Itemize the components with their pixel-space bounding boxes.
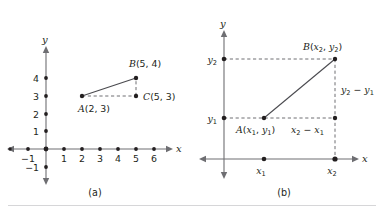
panel-b-point-b [333, 57, 337, 61]
panel-a-xtick-label-2: 2 [79, 153, 85, 164]
panel-a-y-axis-arrow-down [43, 178, 49, 185]
panel-b-ytick-dot-y2 [222, 57, 227, 62]
panel-a-origin-dot [44, 147, 49, 152]
panel-b-ytick-dot-y1 [222, 116, 227, 121]
panel-a-ytick-dot-1 [44, 129, 48, 133]
panel-a-xtick-dot-5 [134, 147, 138, 151]
panel-a-xtick-dot-2 [80, 147, 84, 151]
panel-b-xtick-label-x2: x2 [327, 165, 337, 178]
panel-a: x y −1 1 2 3 4 5 6 [7, 34, 182, 198]
panel-a-ytick-dot-4 [44, 76, 48, 80]
panel-a-y-axis-arrow-up [43, 46, 49, 53]
panel-b-y-axis-label: y [219, 18, 226, 29]
panel-b-segment-ab [264, 59, 335, 118]
panel-a-ytick-label-1: 1 [33, 126, 39, 137]
panel-b-ytick-label-y1: y1 [207, 113, 218, 126]
panel-a-caption: (a) [88, 187, 101, 198]
panel-a-xtick-label-4: 4 [115, 153, 121, 164]
panel-a-xtick-label-3: 3 [97, 153, 103, 164]
panel-a-ytick-label-3: 3 [33, 91, 39, 102]
figure-canvas: x y −1 1 2 3 4 5 6 [0, 0, 384, 212]
panel-b-xtick-dot-x2 [332, 156, 337, 161]
panel-b-ytick-label-y2: y2 [207, 54, 218, 67]
panel-a-ytick-label-2: 2 [33, 109, 39, 120]
panel-a-ytick-dot-neg1 [44, 165, 48, 169]
panel-b-caption: (b) [277, 187, 291, 198]
panel-a-xtick-dot-6 [152, 147, 156, 151]
panel-b-y-axis-arrow-down [221, 172, 227, 179]
panel-a-ytick-label-4: 4 [33, 73, 39, 84]
panel-a-xtick-dot-1 [62, 147, 66, 151]
panel-a-xtick-dot-neg2 [8, 147, 11, 150]
panel-b-xtick-dot-x1 [262, 157, 267, 162]
panel-a-point-b-label: B(5, 4) [128, 58, 161, 69]
panel-a-xtick-dot-4 [116, 147, 120, 151]
panel-b-x-axis-label: x [362, 153, 368, 164]
panel-b-corner-point [333, 116, 337, 120]
panel-b-vertical-leg-label: y2 − y1 [340, 84, 374, 97]
panel-a-x-axis-label: x [176, 143, 182, 154]
panel-a-point-a-label: A(2, 3) [77, 103, 110, 114]
panel-a-ytick-dot-3 [44, 94, 48, 98]
panel-b-point-a [262, 116, 266, 120]
panel-a-xtick-dot-3 [98, 147, 102, 151]
panel-a-ytick-label-neg1: −1 [25, 162, 39, 173]
panel-a-y-axis-label: y [41, 34, 48, 45]
panel-a-point-a [80, 94, 84, 98]
panel-b-y-axis-arrow-up [221, 30, 227, 37]
distance-formula-figure: x y −1 1 2 3 4 5 6 [0, 0, 384, 212]
panel-a-ytick-dot-2 [44, 112, 48, 116]
panel-b-horizontal-leg-label: x2 − x1 [291, 124, 324, 137]
panel-a-xtick-label-1: 1 [61, 153, 67, 164]
bottom-divider [8, 205, 376, 206]
panel-a-x-axis-arrow-right [166, 146, 173, 152]
panel-a-xtick-label-5: 5 [133, 153, 139, 164]
panel-a-xtick-dot-neg1 [26, 147, 30, 151]
panel-a-point-c [134, 94, 138, 98]
panel-a-xtick-label-6: 6 [151, 153, 157, 164]
panel-b: x y y2 y1 x1 [199, 18, 374, 198]
panel-b-point-b-label: B(x2, y2) [302, 41, 342, 54]
panel-a-segment-ab [82, 78, 136, 96]
panel-b-xtick-label-x1: x1 [256, 165, 266, 178]
panel-a-point-c-label: C(5, 3) [143, 91, 175, 102]
panel-b-x-axis-arrow-left [199, 156, 206, 162]
panel-a-point-b [134, 76, 138, 80]
panel-b-x-axis-arrow-right [352, 156, 359, 162]
panel-b-point-a-label: A(x1, y1) [235, 124, 275, 137]
